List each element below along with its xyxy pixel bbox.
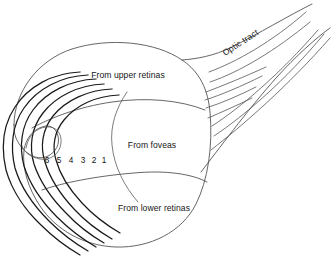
- zone-label-upper-retinas: From upper retinas: [91, 70, 165, 80]
- band-number-4: 4: [69, 156, 74, 165]
- band-number-6: 6: [45, 156, 50, 165]
- optic-tract-diagram: From upper retinas From foveas From lowe…: [0, 0, 336, 259]
- zone-label-foveas: From foveas: [128, 140, 176, 150]
- zone-label-lower-retinas: From lower retinas: [118, 203, 190, 213]
- band-number-1: 1: [102, 156, 107, 165]
- band-number-5: 5: [57, 156, 62, 165]
- band-number-2: 2: [92, 156, 97, 165]
- diagram-background: [0, 0, 336, 259]
- band-number-3: 3: [81, 156, 86, 165]
- diagram-canvas: From upper retinas From foveas From lowe…: [0, 0, 336, 259]
